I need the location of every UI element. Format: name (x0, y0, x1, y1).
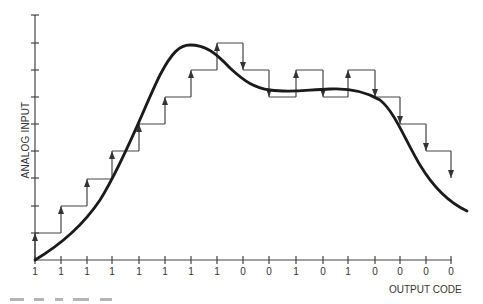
output-code: 0 (448, 266, 454, 277)
caption-fragment (55, 298, 63, 301)
output-code: 0 (266, 266, 272, 277)
x-axis (35, 256, 452, 264)
output-code: 0 (240, 266, 246, 277)
output-code: 1 (136, 266, 142, 277)
x-axis-label: OUTPUT CODE (389, 284, 462, 295)
y-axis-label: ANALOG INPUT (20, 102, 31, 179)
output-code: 1 (345, 266, 351, 277)
output-code: 0 (423, 266, 429, 277)
caption-fragment (73, 298, 89, 301)
output-code: 1 (84, 266, 90, 277)
output-code: 1 (188, 266, 194, 277)
output-code: 0 (372, 266, 378, 277)
figure-caption-clipped (10, 298, 210, 304)
output-code: 0 (320, 266, 326, 277)
delta-modulation-figure: ANALOG INPUT 1 1 1 1 1 1 1 1 0 0 1 0 1 0… (0, 0, 483, 304)
output-code: 1 (109, 266, 115, 277)
staircase-approximation (35, 43, 451, 260)
output-code: 1 (58, 266, 64, 277)
chart-canvas (0, 0, 483, 304)
y-axis (31, 15, 39, 260)
analog-signal-curve (35, 45, 467, 260)
output-code: 1 (214, 266, 220, 277)
output-code: 1 (293, 266, 299, 277)
caption-fragment (100, 298, 112, 301)
caption-fragment (34, 298, 44, 301)
output-code: 0 (397, 266, 403, 277)
caption-fragment (10, 298, 24, 301)
output-code: 1 (32, 266, 38, 277)
step-arrowheads (32, 43, 454, 241)
output-code: 1 (162, 266, 168, 277)
